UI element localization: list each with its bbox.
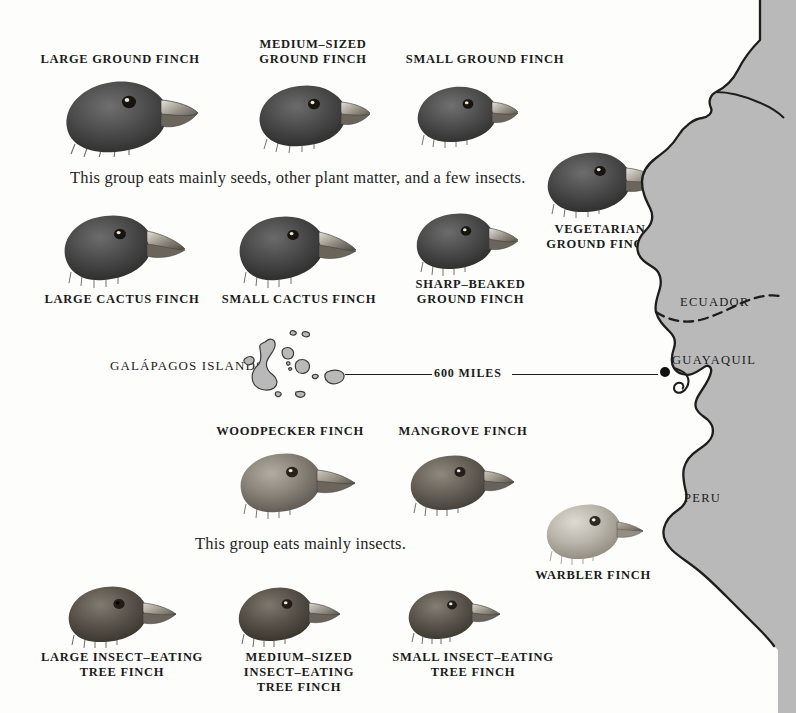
illustration-small-cactus-finch xyxy=(232,210,358,290)
distance-label: 600 MILES xyxy=(434,366,502,381)
illustration-large-ground-finch xyxy=(57,72,202,157)
illustration-sharp-beaked-ground-finch xyxy=(410,208,520,276)
group-description-seed-eaters: This group eats mainly seeds, other plan… xyxy=(70,168,526,188)
distance-line-left xyxy=(345,374,432,375)
map-label-peru: PERU xyxy=(684,491,721,506)
caption-medium-sized-insect-eating-tree-finch: MEDIUM–SIZED INSECT–EATING TREE FINCH xyxy=(215,650,383,695)
caption-large-insect-eating-tree-finch: LARGE INSECT–EATING TREE FINCH xyxy=(22,650,222,680)
caption-medium-sized-ground-finch: MEDIUM–SIZED GROUND FINCH xyxy=(228,37,398,67)
caption-sharp-beaked-ground-finch: SHARP–BEAKED GROUND FINCH xyxy=(388,277,553,307)
galapagos-islands-label: GALÁPAGOS ISLANDS xyxy=(110,358,264,374)
illustration-woodpecker-finch xyxy=(233,448,358,520)
map-label-ecuador: ECUADOR xyxy=(680,295,750,310)
map-label-guayaquil: GUAYAQUIL xyxy=(672,353,756,368)
illustration-large-insect-eating-tree-finch xyxy=(62,582,180,648)
illustration-medium-insect-eating-tree-finch xyxy=(232,583,344,647)
caption-large-ground-finch: LARGE GROUND FINCH xyxy=(30,52,210,67)
caption-woodpecker-finch: WOODPECKER FINCH xyxy=(200,424,380,439)
caption-small-ground-finch: SMALL GROUND FINCH xyxy=(390,52,580,67)
illustration-small-ground-finch xyxy=(411,80,521,148)
illustration-small-insect-eating-tree-finch xyxy=(403,586,503,644)
illustration-large-cactus-finch xyxy=(57,208,187,290)
group-description-insect-eaters: This group eats mainly insects. xyxy=(195,534,406,554)
caption-large-cactus-finch: LARGE CACTUS FINCH xyxy=(32,292,212,307)
caption-small-cactus-finch: SMALL CACTUS FINCH xyxy=(210,292,388,307)
galapagos-finches-figure: LARGE GROUND FINCH MED xyxy=(0,0,796,713)
illustration-mangrove-finch xyxy=(404,450,516,516)
caption-small-insect-eating-tree-finch: SMALL INSECT–EATING TREE FINCH xyxy=(378,650,568,680)
illustration-medium-ground-finch xyxy=(252,78,372,153)
galapagos-islands-map xyxy=(243,330,363,410)
caption-mangrove-finch: MANGROVE FINCH xyxy=(378,424,548,439)
